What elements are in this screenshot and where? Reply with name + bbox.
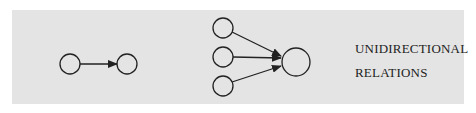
left-graph bbox=[60, 54, 137, 74]
edge-s3-t bbox=[232, 66, 281, 82]
node-a bbox=[60, 54, 80, 74]
node-t bbox=[282, 48, 310, 76]
node-b bbox=[117, 54, 137, 74]
right-graph bbox=[213, 18, 310, 96]
caption-line-2: RELATIONS bbox=[355, 65, 428, 81]
caption-line-1: UNIDIRECTIONAL bbox=[355, 41, 468, 57]
node-s3 bbox=[213, 76, 233, 96]
edge-s2-t bbox=[233, 57, 281, 58]
node-s2 bbox=[213, 47, 233, 67]
node-s1 bbox=[213, 18, 233, 38]
edge-s1-t bbox=[232, 32, 281, 56]
